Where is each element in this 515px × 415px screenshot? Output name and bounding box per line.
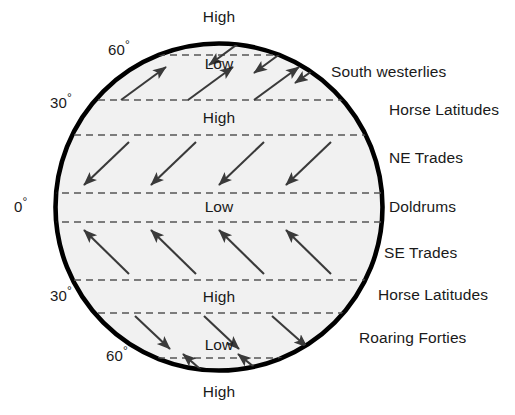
degree-symbol: ° bbox=[67, 91, 72, 105]
degree-symbol: ° bbox=[123, 344, 128, 358]
pressure-label-high-subtropical-north: High bbox=[203, 110, 235, 126]
degree-symbol: ° bbox=[67, 284, 72, 298]
belt-label-ne-trades: NE Trades bbox=[389, 150, 463, 166]
belt-label-roaring-forties: Roaring Forties bbox=[359, 330, 466, 346]
belt-label-south-westerlies: South westerlies bbox=[331, 64, 446, 80]
lat-label-0-equator: 0° bbox=[14, 199, 27, 214]
pressure-label-high-north-pole: High bbox=[203, 9, 235, 25]
belt-label-se-trades: SE Trades bbox=[384, 245, 457, 261]
lat-label-30-north: 30° bbox=[50, 95, 72, 110]
pressure-label-high-south-pole: High bbox=[203, 384, 235, 400]
belt-label-horse-latitudes-south: Horse Latitudes bbox=[378, 287, 488, 303]
degree-symbol: ° bbox=[125, 38, 130, 52]
pressure-label-low-subpolar-south: Low bbox=[205, 337, 234, 353]
lat-label-30-south: 30° bbox=[50, 288, 72, 303]
degree-symbol: ° bbox=[22, 195, 27, 209]
pressure-label-high-subtropical-south: High bbox=[203, 289, 235, 305]
lat-label-60-north: 60° bbox=[108, 42, 130, 57]
pressure-label-low-subpolar-north: Low bbox=[205, 56, 234, 72]
belt-label-doldrums: Doldrums bbox=[389, 199, 456, 215]
lat-label-60-south: 60° bbox=[106, 348, 128, 363]
pressure-label-low-equatorial: Low bbox=[205, 199, 234, 215]
wind-belts-diagram: 60° 30° 0° 30° 60° High Low High Low Hig… bbox=[0, 0, 515, 415]
belt-label-horse-latitudes-north: Horse Latitudes bbox=[389, 102, 499, 118]
